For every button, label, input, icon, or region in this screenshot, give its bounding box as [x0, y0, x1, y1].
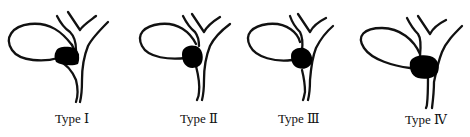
common-hepatic-right-wall — [80, 22, 108, 102]
right-hepatic-duct — [298, 14, 326, 32]
stone — [291, 48, 312, 69]
common-hepatic-right-wall — [308, 26, 333, 100]
panel-type-3 — [248, 14, 333, 100]
panel-type-2 — [140, 14, 230, 100]
right-hepatic-duct — [418, 16, 446, 34]
right-hepatic-duct — [68, 12, 96, 30]
common-bile-duct — [426, 76, 428, 108]
common-hepatic-right-wall — [202, 24, 230, 100]
stone — [182, 45, 203, 67]
label-type-2: Type Ⅱ — [180, 112, 218, 125]
panel-type-1 — [9, 12, 108, 102]
label-type-4: Type Ⅳ — [405, 113, 447, 126]
panel-type-4 — [361, 16, 462, 108]
right-hepatic-duct — [192, 14, 220, 32]
label-type-3: Type Ⅲ — [278, 112, 320, 125]
label-type-1: Type Ⅰ — [55, 112, 89, 125]
common-bile-duct — [196, 66, 199, 100]
stone — [55, 47, 80, 66]
common-bile-duct — [58, 60, 78, 102]
stone — [410, 55, 439, 79]
common-bile-duct — [302, 70, 305, 100]
